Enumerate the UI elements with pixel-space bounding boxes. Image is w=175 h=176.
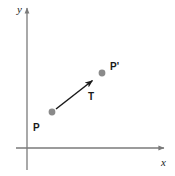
figure-container: x y T P P': [0, 0, 175, 176]
vector-label-t: T: [88, 91, 94, 102]
point-p-prime: [99, 70, 106, 77]
point-label-p-prime: P': [110, 61, 119, 72]
y-axis-label: y: [16, 3, 22, 15]
vector-translation-diagram: x y T P P': [0, 0, 175, 176]
x-axis-label: x: [160, 156, 166, 168]
point-p: [49, 109, 56, 116]
point-label-p: P: [33, 122, 40, 133]
